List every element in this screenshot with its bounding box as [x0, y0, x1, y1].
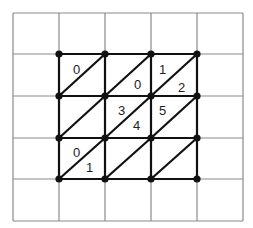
vertex-dot [55, 175, 62, 182]
triangle-label: 4 [133, 118, 140, 133]
triangle-label: 5 [159, 103, 166, 118]
mesh-diagonal [59, 138, 105, 179]
mesh-diagonal [151, 54, 197, 96]
triangle-label: 0 [73, 145, 80, 160]
vertex-dot [147, 134, 154, 141]
vertex-dot [55, 134, 62, 141]
triangle-label: 0 [73, 62, 80, 77]
triangle-label: 1 [86, 160, 93, 175]
vertex-dot [147, 175, 154, 182]
vertex-dot [101, 92, 108, 99]
vertex-dot [193, 134, 200, 141]
vertex-dot [101, 50, 108, 57]
vertex-dot [193, 175, 200, 182]
triangle-label: 3 [118, 103, 125, 118]
mesh-diagonal [105, 54, 151, 96]
mesh-diagonal [151, 138, 197, 179]
triangulated-grid-diagram: 001234501 [0, 0, 253, 228]
mesh-diagonal [105, 96, 151, 138]
triangle-label: 2 [178, 80, 185, 95]
mesh-diagonal [59, 54, 105, 96]
vertex-dot [55, 92, 62, 99]
vertex-dot [193, 92, 200, 99]
vertex-dot [147, 92, 154, 99]
vertex-dot [55, 50, 62, 57]
triangle-label: 0 [134, 77, 141, 92]
vertex-dot [101, 134, 108, 141]
mesh-diagonal [59, 96, 105, 138]
vertex-dot [147, 50, 154, 57]
triangle-label: 1 [159, 62, 166, 77]
vertex-dot [101, 175, 108, 182]
mesh-diagonal [151, 96, 197, 138]
mesh-diagonal [105, 138, 151, 179]
vertex-dot [193, 50, 200, 57]
